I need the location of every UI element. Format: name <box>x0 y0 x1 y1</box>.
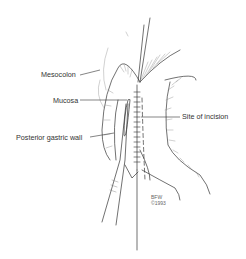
forceps-right-blade <box>116 104 128 225</box>
incision-dashed-line <box>142 98 145 180</box>
label-mucosa: Mucosa <box>53 97 78 104</box>
leader-mesocolon <box>80 70 100 75</box>
artist-signature: BFW ©1993 <box>151 195 166 206</box>
label-posterior-gastric-wall: Posterior gastric wall <box>16 134 82 141</box>
stomach-right-edge <box>165 76 196 80</box>
forceps-left-blade <box>102 104 126 222</box>
label-site-of-incision: Site of incision <box>182 113 228 120</box>
label-mesocolon: Mesocolon <box>41 71 76 78</box>
surgical-illustration <box>0 0 246 259</box>
